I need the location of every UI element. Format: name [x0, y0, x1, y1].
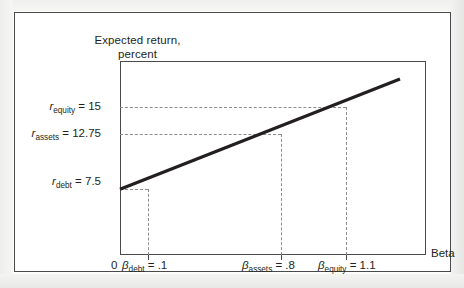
x-label-betaassets-subscript: assets [249, 265, 273, 274]
x-label-betadebt: βdebt = .1 [122, 259, 167, 274]
x-label-betaequity-equals: = [346, 259, 359, 271]
y-label-rassets-value: 12.75 [72, 127, 101, 139]
page-edge-bottom [0, 274, 464, 288]
page-edge-left [0, 0, 13, 288]
y-axis-title: Expected return, percent [65, 33, 210, 61]
x-label-betadebt-subscript: debt [129, 265, 145, 274]
y-label-rdebt-subscript: debt [56, 181, 72, 190]
x-label-betadebt-equals: = [145, 259, 158, 271]
x-label-betaassets-symbol: β [242, 259, 249, 271]
y-label-requity: requity = 15 [23, 100, 101, 115]
x-label-betaassets-equals: = [272, 259, 285, 271]
page-edge-right [451, 0, 464, 288]
y-axis-title-line1: Expected return, [65, 33, 210, 47]
figure-frame: Expected return, percent requity = 15 ra… [14, 12, 451, 272]
y-label-rassets-subscript: assets [35, 133, 59, 142]
security-market-line [120, 61, 426, 255]
tick-betaequity [346, 255, 347, 260]
y-axis-title-line2: percent [65, 47, 210, 61]
x-label-betaassets-value: .8 [285, 259, 295, 271]
page-edge-top [0, 0, 464, 11]
y-label-rdebt: rdebt = 7.5 [29, 175, 101, 190]
x-axis-label: Beta [431, 247, 455, 259]
origin-label: 0 [111, 259, 117, 271]
y-label-requity-subscript: equity [53, 106, 75, 115]
y-label-requity-equals: = [75, 100, 88, 112]
y-label-rassets: rassets = 12.75 [15, 127, 101, 142]
x-label-betaequity-symbol: β [318, 259, 325, 271]
y-label-rassets-equals: = [59, 127, 72, 139]
y-label-requity-value: 15 [88, 100, 101, 112]
x-label-betadebt-value: .1 [158, 259, 168, 271]
plot-area [120, 61, 426, 255]
y-label-rdebt-equals: = [72, 175, 85, 187]
x-label-betaequity-value: 1.1 [360, 259, 376, 271]
x-label-betaequity-subscript: equity [325, 265, 347, 274]
x-label-betaassets: βassets = .8 [242, 259, 295, 274]
tick-betadebt [148, 255, 149, 260]
x-label-betaequity: βequity = 1.1 [318, 259, 376, 274]
x-label-betadebt-symbol: β [122, 259, 129, 271]
y-label-rdebt-value: 7.5 [85, 175, 101, 187]
tick-betaassets [281, 255, 282, 260]
